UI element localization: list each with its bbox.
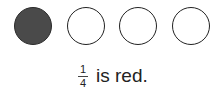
filled-circle xyxy=(14,7,52,45)
caption-text: is red. xyxy=(96,65,148,87)
fraction-numerator: 1 xyxy=(79,64,87,75)
empty-circle xyxy=(67,7,105,45)
empty-circle xyxy=(172,7,210,45)
caption: 1 4 is red. xyxy=(78,63,148,89)
empty-circle xyxy=(119,7,157,45)
fraction: 1 4 xyxy=(78,64,88,89)
fraction-denominator: 4 xyxy=(79,78,87,89)
